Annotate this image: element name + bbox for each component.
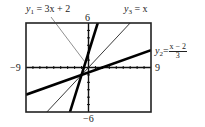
y2-label: y2=x − 23 [155, 43, 187, 60]
graph-screen [0, 0, 205, 127]
ymax-label: 6 [85, 13, 90, 23]
y1-label: y1 = 3x + 2 [26, 4, 70, 17]
ymin-label: −6 [83, 114, 94, 124]
y3-label: y3 = x [124, 4, 148, 17]
y2-fraction: x − 23 [169, 43, 188, 60]
xmin-label: −9 [10, 63, 21, 73]
xmax-label: 9 [155, 63, 160, 73]
